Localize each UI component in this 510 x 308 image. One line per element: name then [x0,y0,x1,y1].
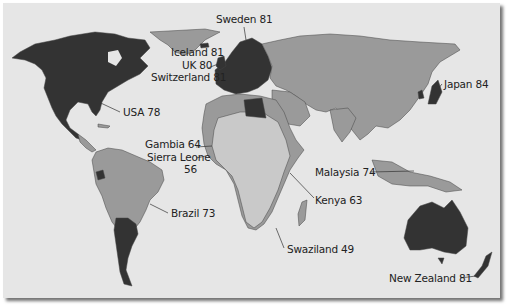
region-caribbean [98,124,110,128]
region-sub-saharan-africa [212,112,290,228]
region-central-america [78,134,96,152]
label-sierra-leone: Sierra Leone [147,151,211,163]
label-gambia: Gambia 64 [145,138,201,150]
label-sweden: Sweden 81 [216,13,272,25]
label-usa: USA 78 [123,106,160,118]
label-uk: UK 80 [182,59,212,71]
label-new-zealand: New Zealand 81 [389,272,472,284]
region-tasmania [438,258,444,264]
region-india [330,108,356,142]
region-australia [404,200,468,254]
region-north-america [12,32,150,140]
label-iceland: Iceland 81 [171,46,224,58]
label-swaziland: Swaziland 49 [287,243,354,255]
region-new-zealand [474,252,492,278]
label-japan: Japan 84 [444,78,488,90]
region-argentina-chile [114,218,138,286]
label-sierra-leone-value: 56 [184,163,197,175]
region-indonesia-malaysia [372,160,462,192]
label-malaysia: Malaysia 74 [315,166,375,178]
world-map [0,0,510,308]
label-kenya: Kenya 63 [315,194,362,206]
region-libya [244,98,266,118]
label-switzerland: Switzerland 81 [151,71,226,83]
region-madagascar [298,200,307,226]
label-brazil: Brazil 73 [171,207,215,219]
